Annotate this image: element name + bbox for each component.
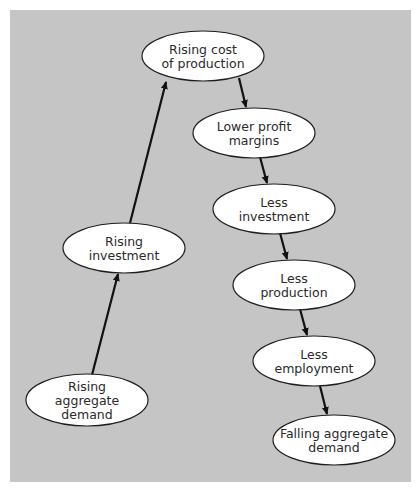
arrow-rising-investment-to-rising-cost xyxy=(130,82,166,223)
node-less-employment: Lessemployment xyxy=(253,336,375,386)
node-label-line: Lower profit xyxy=(217,119,292,134)
arrow-less-investment-to-less-production xyxy=(280,233,287,259)
arrow-less-production-to-less-employment xyxy=(300,309,307,335)
node-label-line: investment xyxy=(89,248,160,263)
node-label-line: demand xyxy=(61,407,112,422)
node-label-line: margins xyxy=(229,133,280,148)
node-less-production: Lessproduction xyxy=(233,260,355,310)
arrow-rising-cost-to-lower-profit xyxy=(239,78,246,107)
node-label-line: Rising cost xyxy=(169,42,237,57)
node-label-line: production xyxy=(260,285,327,300)
node-label-line: Rising xyxy=(105,234,143,249)
node-label-line: employment xyxy=(274,361,353,376)
node-label-line: Less xyxy=(300,347,327,362)
node-label-line: aggregate xyxy=(55,393,120,408)
node-label-line: Less xyxy=(260,195,287,210)
node-less-investment: Lessinvestment xyxy=(213,184,335,234)
node-label-line: Falling aggregate xyxy=(280,426,389,441)
node-label-line: Less xyxy=(280,271,307,286)
node-label-line: investment xyxy=(239,209,310,224)
node-rising-investment: Risinginvestment xyxy=(63,223,185,273)
node-label-line: of production xyxy=(161,56,244,71)
arrow-rising-demand-to-rising-investment xyxy=(92,274,118,375)
node-falling-demand: Falling aggregatedemand xyxy=(273,415,395,465)
node-rising-demand: Risingaggregatedemand xyxy=(26,374,148,426)
node-label-line: Rising xyxy=(68,379,106,394)
arrow-lower-profit-to-less-investment xyxy=(260,157,267,183)
arrow-less-employment-to-falling-demand xyxy=(320,386,327,414)
node-rising-cost: Rising costof production xyxy=(142,31,264,81)
node-label-line: demand xyxy=(308,440,359,455)
flow-diagram: Rising costof productionLower profitmarg… xyxy=(0,0,417,492)
node-lower-profit: Lower profitmargins xyxy=(193,108,315,158)
